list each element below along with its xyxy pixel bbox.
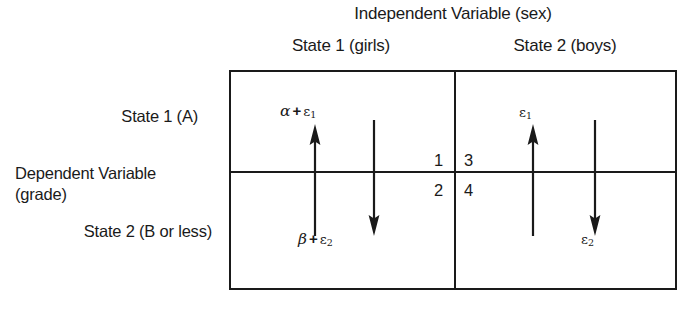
formula-alpha-plus-epsilon1: α+ε1 <box>280 102 316 120</box>
down-arrow-boys <box>583 120 607 236</box>
up-arrow-girls <box>303 124 327 236</box>
dependent-variable-label-line2: (grade) <box>15 184 212 205</box>
row-label-state1-a: State 1 (A) <box>0 107 198 126</box>
greek-epsilon-1-boys: ε1 <box>519 104 532 120</box>
greek-alpha: α <box>280 102 290 120</box>
independent-variable-title: Independent Variable (sex) <box>229 4 677 24</box>
formula-epsilon2-boys: ε2 <box>581 230 594 248</box>
row-label-state2-b-or-less: State 2 (B or less) <box>0 222 212 241</box>
plus-sign-beta: + <box>307 230 320 247</box>
greek-epsilon-1: ε1 <box>303 103 316 119</box>
quadrant-number-4: 4 <box>464 182 473 199</box>
plus-sign-alpha: + <box>290 102 303 119</box>
horizontal-divider <box>231 171 675 173</box>
quadrant-number-2: 2 <box>434 182 443 199</box>
up-arrow-boys <box>521 124 545 236</box>
dependent-variable-label-line1: Dependent Variable <box>15 163 212 184</box>
vertical-divider <box>454 72 456 288</box>
transition-matrix: 1 3 2 4 α+ε1 β+ε2 <box>229 70 677 290</box>
diagram-canvas: Independent Variable (sex) State 1 (girl… <box>0 0 699 311</box>
column-header-state1-girls: State 1 (girls) <box>229 36 453 56</box>
quadrant-number-3: 3 <box>464 152 473 169</box>
greek-epsilon-2-girls: ε2 <box>320 231 333 247</box>
greek-epsilon-2-boys: ε2 <box>581 231 594 247</box>
quadrant-number-1: 1 <box>434 152 443 169</box>
column-header-state2-boys: State 2 (boys) <box>453 36 677 56</box>
down-arrow-girls <box>362 120 386 236</box>
formula-epsilon1-boys: ε1 <box>519 103 532 121</box>
greek-beta: β <box>298 230 307 248</box>
dependent-variable-label: Dependent Variable (grade) <box>0 163 212 205</box>
formula-beta-plus-epsilon2: β+ε2 <box>298 230 333 248</box>
